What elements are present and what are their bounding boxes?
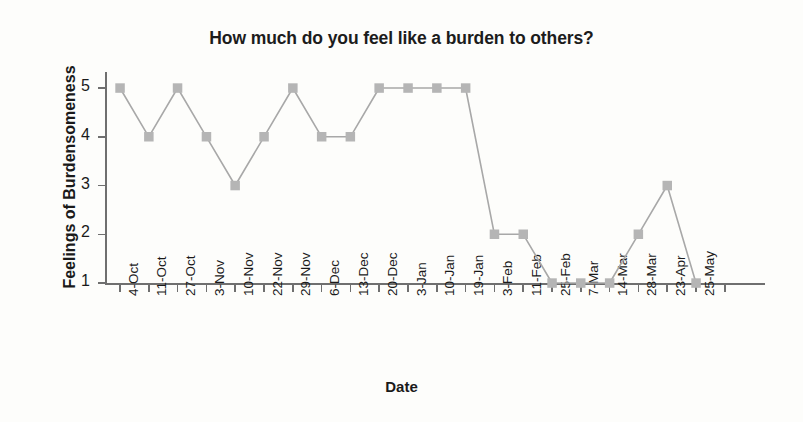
- data-point: [461, 83, 471, 93]
- y-tick-label: 2: [62, 223, 90, 241]
- x-tick-mark: [465, 285, 467, 292]
- data-point: [519, 230, 529, 240]
- x-tick-label: 3-Nov: [212, 260, 227, 296]
- series-line: [120, 88, 696, 283]
- x-tick-mark: [724, 285, 726, 292]
- data-series: [0, 0, 803, 422]
- y-tick-mark: [98, 282, 106, 284]
- data-point: [663, 181, 673, 191]
- y-tick-mark: [98, 87, 106, 89]
- y-tick-label: 4: [62, 126, 90, 144]
- x-tick-mark: [609, 285, 611, 292]
- x-tick-label: 19-Jan: [471, 255, 486, 296]
- y-tick-mark: [98, 185, 106, 187]
- x-tick-label: 29-Nov: [298, 252, 313, 296]
- y-tick-mark: [98, 136, 106, 138]
- data-point: [115, 83, 125, 93]
- x-tick-label: 14-Mar: [615, 253, 630, 296]
- x-tick-label: 10-Jan: [442, 255, 457, 296]
- x-tick-mark: [522, 285, 524, 292]
- x-tick-label: 3-Jan: [414, 262, 429, 296]
- x-tick-mark: [407, 285, 409, 292]
- x-tick-mark: [494, 285, 496, 292]
- data-point: [403, 83, 413, 93]
- data-point: [259, 132, 269, 142]
- x-tick-label: 25-May: [702, 251, 717, 296]
- data-point: [288, 83, 298, 93]
- x-tick-label: 23-Apr: [673, 255, 688, 296]
- x-tick-mark: [551, 285, 553, 292]
- data-point: [173, 83, 183, 93]
- x-tick-mark: [638, 285, 640, 292]
- x-tick-label: 22-Nov: [270, 252, 285, 296]
- y-tick-label: 5: [62, 77, 90, 95]
- x-tick-mark: [666, 285, 668, 292]
- x-tick-mark: [119, 285, 121, 292]
- x-tick-mark: [206, 285, 208, 292]
- x-tick-label: 7-Mar: [586, 261, 601, 296]
- x-tick-mark: [292, 285, 294, 292]
- data-point: [144, 132, 154, 142]
- data-point: [374, 83, 384, 93]
- chart-title: How much do you feel like a burden to ot…: [0, 28, 803, 49]
- data-point: [634, 230, 644, 240]
- data-point: [432, 83, 442, 93]
- y-tick-label: 1: [62, 272, 90, 290]
- data-point: [202, 132, 212, 142]
- x-tick-mark: [321, 285, 323, 292]
- x-tick-label: 11-Feb: [529, 254, 544, 296]
- y-tick-mark: [98, 234, 106, 236]
- series-markers: [115, 83, 701, 287]
- x-tick-mark: [148, 285, 150, 292]
- x-tick-mark: [234, 285, 236, 292]
- x-tick-label: 6-Dec: [327, 260, 342, 296]
- x-tick-label: 3-Feb: [500, 261, 515, 296]
- x-tick-mark: [177, 285, 179, 292]
- x-tick-mark: [436, 285, 438, 292]
- data-point: [490, 230, 500, 240]
- x-tick-label: 13-Dec: [356, 252, 371, 296]
- x-tick-label: 4-Oct: [126, 263, 141, 296]
- chart-page: How much do you feel like a burden to ot…: [0, 0, 803, 422]
- x-tick-mark: [350, 285, 352, 292]
- data-point: [346, 132, 356, 142]
- x-tick-label: 27-Oct: [183, 255, 198, 296]
- x-tick-mark: [580, 285, 582, 292]
- x-axis-label: Date: [0, 378, 803, 395]
- x-tick-label: 28-Mar: [644, 253, 659, 296]
- x-tick-label: 20-Dec: [385, 252, 400, 296]
- x-tick-mark: [263, 285, 265, 292]
- x-tick-label: 10-Nov: [241, 252, 256, 296]
- x-tick-mark: [378, 285, 380, 292]
- data-point: [230, 181, 240, 191]
- x-tick-mark: [695, 285, 697, 292]
- y-tick-label: 3: [62, 175, 90, 193]
- y-axis-spine: [105, 72, 107, 285]
- x-tick-label: 25-Feb: [558, 253, 573, 296]
- data-point: [317, 132, 327, 142]
- x-tick-label: 11-Oct: [154, 256, 169, 296]
